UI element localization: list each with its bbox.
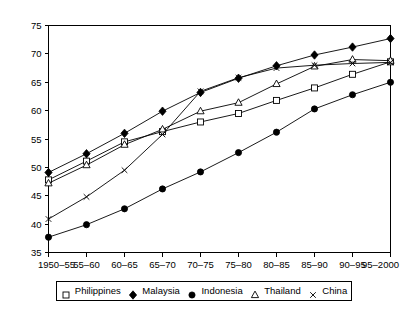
data-point-marker xyxy=(121,129,128,137)
filled-diamond-icon xyxy=(128,286,138,296)
y-tick-label: 50 xyxy=(31,162,42,173)
y-tick-label: 70 xyxy=(31,48,42,59)
data-point-marker xyxy=(83,150,90,158)
data-point-marker xyxy=(236,110,242,116)
data-point-marker xyxy=(189,292,195,298)
data-point-marker xyxy=(273,80,280,87)
y-tick-label: 75 xyxy=(31,20,42,31)
chart-figure: 354045505560657075 1950–5555–6060–6565–7… xyxy=(0,0,410,309)
data-point-marker xyxy=(252,291,259,298)
data-point-marker xyxy=(84,194,90,200)
chart-axes xyxy=(49,26,391,253)
x-tick-label: 55–60 xyxy=(73,259,99,270)
data-point-marker xyxy=(45,234,51,240)
plot-frame xyxy=(49,26,391,253)
x-tick-label: 95–2000 xyxy=(362,259,399,270)
axis-ticks xyxy=(45,26,391,257)
data-point-marker xyxy=(274,97,280,103)
series-china xyxy=(46,60,394,222)
legend-label: China xyxy=(322,286,347,296)
y-tick-label: 45 xyxy=(31,190,42,201)
data-point-marker xyxy=(197,88,204,96)
series-line xyxy=(49,39,391,173)
data-point-marker xyxy=(235,150,241,156)
data-point-marker xyxy=(349,92,355,98)
data-point-marker xyxy=(63,292,69,298)
legend-entry-malaysia: Malaysia xyxy=(128,286,180,296)
y-tick-label: 65 xyxy=(31,77,42,88)
series-line xyxy=(49,62,391,219)
x-tick-label: 80–85 xyxy=(263,259,289,270)
series-indonesia xyxy=(45,79,393,240)
data-point-marker xyxy=(273,129,279,135)
data-point-marker xyxy=(159,107,166,115)
open-square-icon xyxy=(61,286,71,296)
x-tick-label: 70–75 xyxy=(187,259,213,270)
data-point-marker xyxy=(349,43,356,51)
data-point-marker xyxy=(311,292,317,298)
legend-label: Indonesia xyxy=(201,286,242,296)
y-tick-label: 40 xyxy=(31,219,42,230)
data-point-marker xyxy=(130,291,137,299)
data-point-marker xyxy=(311,106,317,112)
open-triangle-icon xyxy=(250,286,260,296)
legend-entry-china: China xyxy=(308,286,347,296)
data-point-marker xyxy=(350,71,356,77)
legend-label: Malaysia xyxy=(142,286,180,296)
x-tick-label: 85–90 xyxy=(301,259,327,270)
series-philippines xyxy=(46,59,394,183)
data-point-marker xyxy=(197,169,203,175)
data-point-marker xyxy=(312,85,318,91)
data-point-marker xyxy=(122,167,128,173)
legend-entry-thailand: Thailand xyxy=(250,286,300,296)
series-line xyxy=(49,60,391,184)
data-point-marker xyxy=(121,206,127,212)
line-chart: 354045505560657075 1950–5555–6060–6565–7… xyxy=(0,0,410,309)
data-point-marker xyxy=(198,119,204,125)
x-tick-label: 65–70 xyxy=(149,259,175,270)
legend-entry-philippines: Philippines xyxy=(61,286,121,296)
chart-legend: PhilippinesMalaysiaIndonesiaThailandChin… xyxy=(56,281,352,301)
y-tick-label: 60 xyxy=(31,105,42,116)
series-thailand xyxy=(45,56,394,186)
y-axis-tick-labels: 354045505560657075 xyxy=(31,20,42,258)
y-tick-label: 35 xyxy=(31,247,42,258)
x-tick-label: 75–80 xyxy=(225,259,251,270)
cross-icon xyxy=(308,286,318,296)
x-tick-label: 1950–55 xyxy=(38,259,75,270)
data-series-group xyxy=(45,34,394,240)
data-point-marker xyxy=(159,186,165,192)
data-point-marker xyxy=(45,168,52,176)
legend-entry-indonesia: Indonesia xyxy=(187,286,242,296)
data-point-marker xyxy=(235,99,242,106)
legend-label: Philippines xyxy=(75,286,121,296)
x-axis-tick-labels: 1950–5555–6060–6565–7070–7575–8080–8585–… xyxy=(38,259,399,270)
x-tick-label: 60–65 xyxy=(111,259,137,270)
filled-circle-icon xyxy=(187,286,197,296)
data-point-marker xyxy=(311,51,318,59)
y-tick-label: 55 xyxy=(31,134,42,145)
legend-label: Thailand xyxy=(264,286,300,296)
series-line xyxy=(49,82,391,237)
data-point-marker xyxy=(387,79,393,85)
data-point-marker xyxy=(387,34,394,42)
data-point-marker xyxy=(83,222,89,228)
